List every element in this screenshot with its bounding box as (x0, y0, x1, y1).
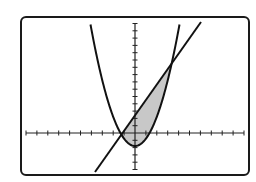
graph-svg (0, 0, 256, 182)
calculator-graph (0, 0, 256, 182)
